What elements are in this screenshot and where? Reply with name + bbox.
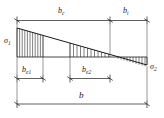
label-be1-sub: e1 (26, 69, 31, 75)
dimension-line-be2 (67, 75, 113, 83)
stress-diagram-svg (0, 0, 164, 118)
label-be1: be1 (22, 66, 31, 74)
label-sigma2: σ2 (150, 63, 157, 71)
hatch-zone-be1 (20, 29, 43, 57)
dimension-line-b-total (14, 100, 150, 108)
extension-lines (17, 25, 147, 101)
label-bc-sub: c (62, 10, 64, 16)
label-b-total: b (79, 91, 84, 100)
stress-gradient-line (17, 28, 147, 65)
stress-diagram-body (17, 28, 147, 66)
label-be2: be2 (82, 66, 91, 74)
dimension-line-be1 (14, 75, 46, 83)
label-b-total-base: b (79, 90, 84, 100)
label-sigma2-sub: 2 (154, 66, 157, 72)
dimension-line-top (14, 17, 150, 25)
label-be2-sub: e2 (86, 69, 91, 75)
label-bc: bc (58, 7, 64, 15)
label-sigma1: σ1 (4, 37, 11, 45)
label-sigma1-sub: 1 (8, 40, 11, 46)
figure-canvas: bc bt σ1 σ2 be1 be2 b (0, 0, 164, 118)
label-bt-sub: t (127, 10, 129, 16)
label-bt: bt (123, 7, 129, 15)
